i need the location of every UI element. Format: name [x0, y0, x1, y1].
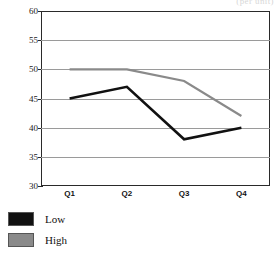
legend-item: Low — [8, 210, 158, 228]
chart-title-remnant: (per unit) — [236, 0, 274, 6]
x-axis-tick-label: Q1 — [50, 189, 90, 199]
y-axis-tick-label: 40 — [6, 124, 38, 133]
legend-swatch-high — [8, 233, 34, 247]
y-axis: 60555045403530 — [2, 11, 38, 186]
gridlines — [41, 41, 270, 158]
x-axis-tick-label: Q3 — [164, 189, 204, 199]
y-axis-tick-label: 60 — [6, 7, 38, 16]
y-axis-tick-label: 50 — [6, 65, 38, 74]
y-axis-tick-mark — [38, 186, 43, 187]
legend-swatch-low — [8, 212, 34, 226]
legend-label: Low — [45, 213, 65, 226]
legend-item: High — [8, 231, 158, 249]
line-chart: (per unit) 60555045403530 Q1Q2Q3Q4 LowHi… — [0, 0, 280, 260]
plot-series-layer — [41, 11, 270, 186]
y-axis-tick-label: 30 — [6, 182, 38, 191]
x-axis-tick-label: Q2 — [107, 189, 147, 199]
y-axis-tick-label: 45 — [6, 95, 38, 104]
y-axis-tick-label: 55 — [6, 36, 38, 45]
y-axis-tick-label: 35 — [6, 153, 38, 162]
x-axis: Q1Q2Q3Q4 — [41, 189, 270, 203]
x-axis-tick-label: Q4 — [221, 189, 261, 199]
chart-legend: LowHigh — [8, 210, 158, 252]
legend-label: High — [45, 234, 67, 247]
series-line-low — [70, 87, 242, 140]
